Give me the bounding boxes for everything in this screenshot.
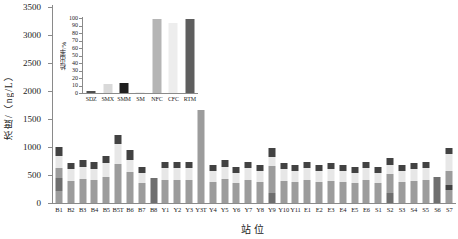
inset-y-tick: 30 [62,67,78,74]
inset-y-tick: 10 [62,82,78,89]
main-y-tick: 2500 [1,58,41,69]
bar-segment-light [138,173,145,183]
main-x-axis-title: 站位 [52,221,456,236]
bar-segment-light [91,169,98,180]
bar-segment-light [304,168,311,180]
stacked-bar-Y6 [233,167,240,203]
bar-segment-light [245,168,252,180]
bar-segment-light [339,171,346,182]
bar-segment-light [209,171,216,182]
bar-slot-E6 [361,7,373,203]
stacked-bar-Y1 [162,162,169,203]
bar-segment-gray [327,181,334,203]
bar-slot-E1 [301,7,313,203]
stacked-bar-S5 [422,162,429,203]
bar-slot-S2 [384,7,396,203]
bar-segment-cap [221,160,228,167]
bar-segment-light [115,144,122,164]
bar-segment-gray [387,174,394,193]
inset-bar-RTM [185,19,194,93]
bar-segment-gray [245,180,252,203]
main-x-axis-line [52,203,456,204]
x-tick-E3: E3 [325,206,337,213]
bar-segment-gray [398,182,405,203]
bar-segment-light [398,171,405,182]
stacked-bar-S6 [434,177,441,203]
bar-segment-light [174,168,181,180]
inset-y-tick: 60 [62,45,78,52]
x-tick-E4: E4 [337,206,349,213]
main-y-tick: 1000 [1,142,41,153]
bar-segment-light [410,169,417,180]
bar-segment-gray [363,180,370,203]
inset-y-tick: 100 [62,15,78,22]
bar-slot-S3 [396,7,408,203]
bar-slot-S7 [443,7,455,203]
stacked-bar-B8 [150,178,157,203]
inset-plot-bars [83,18,198,93]
inset-bar-SDZ [87,91,96,93]
x-tick-B1: B1 [53,206,65,213]
x-tick-Y10: Y10 [278,206,290,213]
inset-x-tick-NFC: NFC [149,96,165,102]
x-tick-S1: S1 [372,206,384,213]
bar-slot-Y11 [290,7,302,203]
x-tick-Y8: Y8 [254,206,266,213]
stacked-bar-B5 [103,156,110,203]
stacked-bar-Y9 [268,148,275,203]
bar-segment-cap [126,150,133,160]
x-tick-E2: E2 [313,206,325,213]
bar-segment-cap [115,135,122,144]
stacked-bar-Y3 [186,162,193,203]
bar-slot-Y9 [266,7,278,203]
bar-segment-light [387,165,394,174]
inset-bar-slot-NFC [149,18,165,93]
bar-segment-dark [387,193,394,203]
x-tick-S4: S4 [408,206,420,213]
bar-segment-gray [280,181,287,203]
bar-segment-cap [103,156,110,163]
x-tick-S6: S6 [432,206,444,213]
x-tick-E6: E6 [361,206,373,213]
bar-segment-gray [138,183,145,203]
bar-segment-gray [55,191,62,203]
bar-segment-gray [55,168,62,178]
stacked-bar-B2 [67,163,74,203]
stacked-bar-Y10 [280,163,287,203]
inset-y-tick: 50 [62,52,78,59]
bar-slot-E5 [349,7,361,203]
bar-segment-gray [256,182,263,203]
bar-segment-light [79,167,86,179]
bar-slot-E4 [337,7,349,203]
x-tick-B4: B4 [88,206,100,213]
x-tick-B5T: B5T [112,206,124,213]
figure: 浓度/（ng/L） 0500100015002000250030003500 B… [0,0,458,239]
bar-slot-S4 [408,7,420,203]
bar-slot-Y6 [230,7,242,203]
inset-x-tick-RTM: RTM [182,96,198,102]
stacked-bar-E1 [304,162,311,203]
stacked-bar-E6 [363,162,370,203]
inset-bar-slot-SMX [99,18,115,93]
x-tick-Y11: Y11 [290,206,302,213]
bar-segment-light [233,173,240,183]
bar-segment-cap [268,148,275,157]
x-tick-Y3T: Y3T [195,206,207,213]
stacked-bar-B3 [79,160,86,203]
bar-segment-gray [375,183,382,203]
bar-segment-gray [233,183,240,203]
x-tick-Y5: Y5 [219,206,231,213]
bar-segment-gray [422,180,429,203]
bar-segment-dark [268,193,275,203]
inset-y-tick: 0 [62,90,78,97]
x-tick-Y4: Y4 [207,206,219,213]
bar-segment-dark [55,178,62,191]
inset-bar-SMM [120,83,129,93]
bar-segment-gray [162,180,169,203]
stacked-bar-Y8 [256,165,263,203]
main-y-tick: 1500 [1,114,41,125]
bar-segment-light [186,168,193,180]
x-tick-Y1: Y1 [159,206,171,213]
bar-segment-cap [387,158,394,165]
x-tick-B8: B8 [148,206,160,213]
